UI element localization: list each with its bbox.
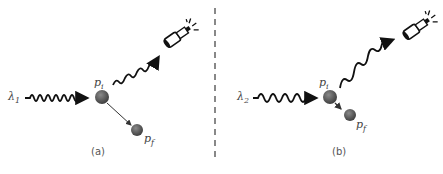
recoil-arrow-b <box>335 103 341 109</box>
incoming-photon-wave-a <box>25 95 86 101</box>
incoming-wavelength-label-b: λ2 <box>237 90 249 105</box>
initial-momentum-label-b: pi <box>319 76 329 91</box>
final-particle-a <box>131 124 143 136</box>
recoil-arrow-a <box>107 103 131 125</box>
final-particle-b <box>344 109 356 121</box>
scattered-photon-wave-b <box>340 40 392 88</box>
initial-particle-a <box>95 90 109 104</box>
panel-a <box>25 16 200 136</box>
panel-b <box>253 8 439 121</box>
incoming-wavelength-label-a: λ1 <box>8 90 20 105</box>
initial-momentum-label-a: pi <box>94 76 104 91</box>
final-momentum-label-a: pf <box>144 132 154 147</box>
initial-particle-b <box>323 90 337 104</box>
diagram-canvas <box>0 0 443 174</box>
incoming-photon-wave-b <box>253 94 315 102</box>
telescope-detector-icon <box>160 16 200 51</box>
caption-b: (b) <box>332 146 346 157</box>
final-momentum-label-b: pf <box>356 118 366 133</box>
scattered-photon-wave-a <box>113 58 158 85</box>
telescope-detector-icon <box>399 8 439 43</box>
caption-a: (a) <box>91 146 105 157</box>
